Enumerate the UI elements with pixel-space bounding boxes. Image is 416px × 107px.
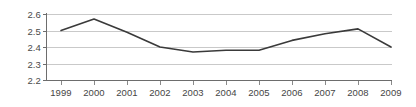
data-series-line: [61, 19, 391, 52]
line-chart: 2.6 2.5 2.4 2.3 2.2 1999 2000 2001 2002 …: [0, 0, 416, 107]
series-layer: [0, 0, 416, 107]
